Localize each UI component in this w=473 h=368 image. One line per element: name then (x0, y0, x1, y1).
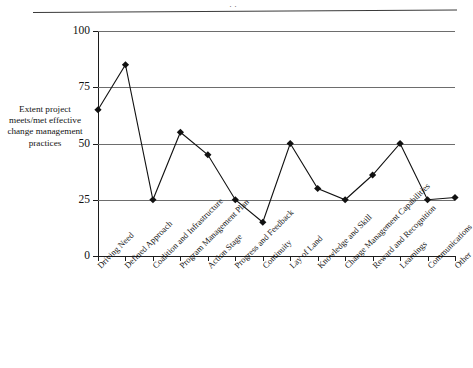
x-category-label: Other (453, 250, 473, 270)
